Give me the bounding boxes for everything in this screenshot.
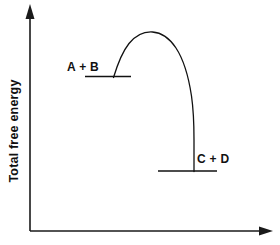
y-axis-arrow-icon [26, 4, 35, 19]
reactant-label: A + B [67, 60, 99, 74]
y-axis-title: Total free energy [7, 79, 21, 182]
y-axis [26, 4, 35, 231]
x-axis-arrow-icon [259, 227, 273, 236]
energy-profile-diagram: A + B C + D Total free energy [0, 0, 280, 245]
diagram-canvas: A + B C + D Total free energy [0, 0, 280, 245]
product-label: C + D [197, 152, 230, 166]
x-axis [30, 227, 273, 236]
reaction-energy-curve [114, 32, 195, 172]
